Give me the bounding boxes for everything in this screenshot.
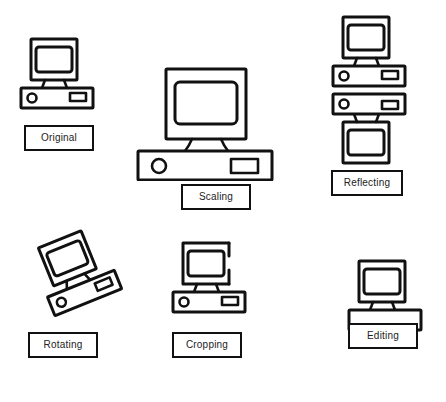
- label-box-cropping: Cropping: [172, 332, 242, 358]
- label-box-original: Original: [24, 125, 94, 151]
- reflecting-computer-icon: [330, 14, 410, 166]
- label-text-original: Original: [41, 133, 77, 143]
- label-text-cropping: Cropping: [186, 340, 228, 350]
- original-computer-icon: [18, 36, 98, 114]
- cropping-computer-icon: [170, 240, 250, 318]
- rotating-computer-icon: [22, 228, 134, 328]
- label-box-rotating: Rotating: [28, 332, 98, 358]
- label-text-reflecting: Reflecting: [344, 178, 390, 188]
- scaling-computer-icon: [135, 66, 285, 181]
- label-box-editing: Editing: [348, 323, 418, 349]
- label-text-rotating: Rotating: [44, 340, 83, 350]
- label-box-scaling: Scaling: [181, 184, 251, 210]
- label-box-reflecting: Reflecting: [331, 170, 403, 196]
- label-text-scaling: Scaling: [199, 192, 233, 202]
- label-text-editing: Editing: [367, 331, 399, 341]
- diagram-canvas: Original Scaling: [0, 0, 446, 402]
